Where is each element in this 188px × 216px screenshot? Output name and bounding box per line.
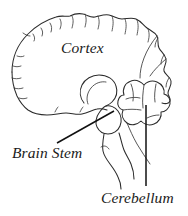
brain-illustration (0, 0, 188, 216)
brain-diagram: Cortex Brain Stem Cerebellum (0, 0, 188, 216)
brain-stem-posterior (119, 133, 134, 179)
label-cortex: Cortex (61, 40, 104, 56)
brain-stem (103, 134, 121, 189)
label-brain-stem: Brain Stem (12, 145, 82, 161)
cortex-inner-fissure-lower (150, 59, 166, 76)
cortex-inner-fissure-right (140, 36, 157, 78)
corpus-callosum-inner (87, 82, 106, 104)
cortex-outline (12, 14, 171, 104)
brain-stem-leader-line (57, 111, 114, 143)
corpus-callosum (80, 75, 117, 106)
cerebellum-folia (123, 84, 159, 118)
label-cerebellum: Cerebellum (101, 190, 174, 206)
cortex-underside (12, 72, 107, 115)
cortex-sulci (12, 14, 169, 112)
